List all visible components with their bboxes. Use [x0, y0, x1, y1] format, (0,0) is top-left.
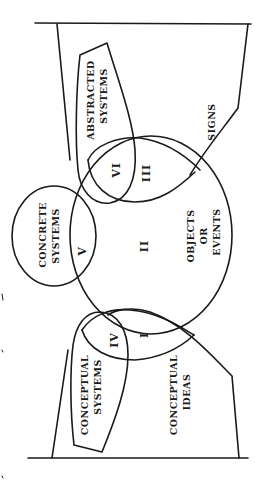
- region-vi: VI: [110, 162, 123, 179]
- margin-tick: [2, 476, 3, 478]
- label-events: EVENTS: [211, 208, 222, 255]
- top-boundary-line: [35, 23, 251, 24]
- label-signs: SIGNS: [206, 103, 217, 140]
- label-concrete-systems: SYSTEMS: [50, 208, 61, 264]
- region-iv: IV: [108, 332, 121, 348]
- label-concrete: CONCRETE: [37, 202, 48, 268]
- margin-tick: [2, 350, 3, 352]
- region-i: I: [138, 332, 151, 338]
- venn-diagram: SIGNS ABSTRACTED SYSTEMS CONCRETE SYSTEM…: [0, 0, 255, 484]
- region-ii: II: [138, 240, 151, 252]
- label-or: OR: [198, 227, 209, 244]
- label-objects: OBJECTS: [185, 209, 196, 262]
- label-conceptual-systems-2: SYSTEMS: [92, 359, 103, 415]
- margin-tick: [2, 294, 3, 300]
- label-abstracted: ABSTRACTED: [85, 60, 96, 141]
- region-v: V: [76, 246, 89, 257]
- label-conceptual-ideas-1: CONCEPTUAL: [168, 355, 179, 436]
- label-conceptual-systems-1: CONCEPTUAL: [79, 355, 90, 436]
- region-iii: III: [140, 164, 153, 182]
- ideas-objects-lens: [82, 310, 194, 335]
- label-conceptual-ideas-2: IDEAS: [181, 374, 192, 411]
- label-abstracted-systems: SYSTEMS: [98, 68, 109, 124]
